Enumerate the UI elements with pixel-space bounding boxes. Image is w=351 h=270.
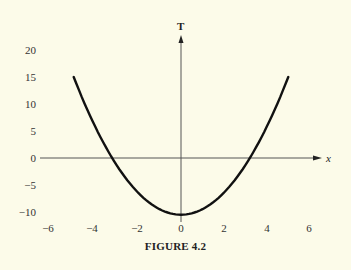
y-tick-label: −5 (24, 179, 36, 191)
y-tick-label: 10 (25, 98, 37, 110)
y-tick-label: 5 (31, 125, 37, 137)
y-tick-labels: 20 15 10 5 0 −5 −10 (19, 44, 37, 218)
y-tick-label: 15 (25, 71, 37, 83)
figure-caption: FIGURE 4.2 (0, 240, 351, 252)
chart-plot: x T 20 15 10 5 0 −5 −10 −6 −4 −2 0 2 4 6 (0, 0, 351, 270)
figure: x T 20 15 10 5 0 −5 −10 −6 −4 −2 0 2 4 6… (0, 0, 351, 270)
y-tick-label: 20 (25, 44, 37, 56)
x-tick-label: 2 (221, 222, 227, 234)
x-tick-label: −2 (131, 222, 143, 234)
y-axis-arrow-icon (179, 35, 184, 43)
y-tick-label: 0 (31, 152, 37, 164)
y-tick-label: −10 (19, 206, 37, 218)
x-axis-arrow-icon (313, 156, 322, 161)
x-tick-label: 4 (264, 222, 270, 234)
x-tick-label: 6 (306, 222, 312, 234)
x-tick-labels: −6 −4 −2 0 2 4 6 (42, 222, 312, 234)
x-tick-label: −6 (42, 222, 54, 234)
x-axis-label: x (325, 152, 331, 164)
x-tick-label: −4 (86, 222, 98, 234)
x-tick-label: 0 (178, 222, 184, 234)
y-axis-label: T (177, 20, 185, 32)
